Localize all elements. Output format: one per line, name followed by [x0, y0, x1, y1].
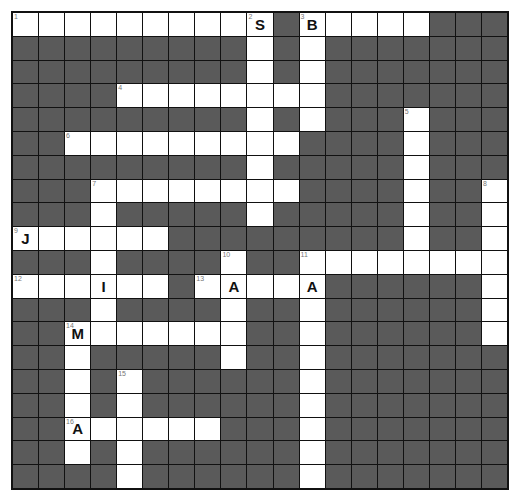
crossword-cell[interactable] [195, 13, 220, 36]
crossword-cell[interactable] [404, 227, 429, 250]
crossword-cell[interactable] [300, 84, 325, 107]
crossword-cell[interactable] [221, 132, 246, 155]
crossword-cell[interactable] [300, 299, 325, 322]
crossword-cell[interactable] [169, 418, 194, 441]
crossword-cell[interactable] [404, 180, 429, 203]
crossword-cell[interactable]: 14M [65, 322, 90, 345]
crossword-cell[interactable] [117, 418, 142, 441]
crossword-cell[interactable] [117, 322, 142, 345]
crossword-cell[interactable] [169, 13, 194, 36]
crossword-cell[interactable] [195, 418, 220, 441]
crossword-cell[interactable] [65, 13, 90, 36]
crossword-cell[interactable]: 4 [117, 84, 142, 107]
crossword-cell[interactable]: 15 [117, 370, 142, 393]
crossword-cell[interactable] [221, 322, 246, 345]
crossword-cell[interactable] [91, 132, 116, 155]
crossword-cell[interactable] [352, 13, 377, 36]
crossword-cell[interactable] [91, 13, 116, 36]
crossword-cell[interactable] [247, 132, 272, 155]
crossword-cell[interactable] [143, 84, 168, 107]
crossword-cell[interactable]: I [91, 275, 116, 298]
crossword-cell[interactable] [143, 13, 168, 36]
crossword-cell[interactable] [274, 275, 299, 298]
crossword-cell[interactable] [404, 251, 429, 274]
crossword-cell[interactable] [274, 180, 299, 203]
crossword-cell[interactable]: 5 [404, 108, 429, 131]
crossword-cell[interactable] [65, 394, 90, 417]
crossword-cell[interactable] [326, 251, 351, 274]
crossword-cell[interactable] [91, 322, 116, 345]
crossword-cell[interactable] [65, 227, 90, 250]
crossword-cell[interactable] [195, 84, 220, 107]
crossword-cell[interactable]: 8 [482, 180, 507, 203]
crossword-cell[interactable] [117, 180, 142, 203]
crossword-cell[interactable] [274, 132, 299, 155]
crossword-cell[interactable] [39, 275, 64, 298]
crossword-cell[interactable] [117, 394, 142, 417]
crossword-cell[interactable] [300, 37, 325, 60]
crossword-cell[interactable]: 10 [221, 251, 246, 274]
crossword-cell[interactable] [274, 84, 299, 107]
crossword-cell[interactable] [169, 322, 194, 345]
crossword-cell[interactable]: 16A [65, 418, 90, 441]
crossword-cell[interactable] [247, 108, 272, 131]
crossword-cell[interactable]: 7 [91, 180, 116, 203]
crossword-cell[interactable] [300, 441, 325, 464]
crossword-cell[interactable] [482, 227, 507, 250]
crossword-cell[interactable] [91, 418, 116, 441]
crossword-cell[interactable] [117, 441, 142, 464]
crossword-cell[interactable] [195, 322, 220, 345]
crossword-cell[interactable] [117, 13, 142, 36]
crossword-cell[interactable]: 1 [13, 13, 38, 36]
crossword-cell[interactable] [65, 441, 90, 464]
crossword-cell[interactable] [91, 299, 116, 322]
crossword-cell[interactable] [300, 418, 325, 441]
crossword-cell[interactable] [300, 394, 325, 417]
crossword-cell[interactable] [482, 203, 507, 226]
crossword-cell[interactable] [247, 203, 272, 226]
crossword-cell[interactable] [117, 465, 142, 488]
crossword-cell[interactable] [247, 156, 272, 179]
crossword-cell[interactable] [300, 108, 325, 131]
crossword-cell[interactable] [247, 61, 272, 84]
crossword-cell[interactable] [352, 251, 377, 274]
crossword-cell[interactable] [482, 275, 507, 298]
crossword-cell[interactable] [247, 37, 272, 60]
crossword-cell[interactable] [143, 132, 168, 155]
crossword-cell[interactable] [143, 418, 168, 441]
crossword-cell[interactable] [378, 251, 403, 274]
crossword-cell[interactable]: 9J [13, 227, 38, 250]
crossword-cell[interactable] [91, 251, 116, 274]
crossword-cell[interactable] [300, 322, 325, 345]
crossword-cell[interactable] [169, 84, 194, 107]
crossword-cell[interactable] [169, 132, 194, 155]
crossword-cell[interactable] [117, 132, 142, 155]
crossword-cell[interactable]: A [300, 275, 325, 298]
crossword-cell[interactable] [39, 13, 64, 36]
crossword-cell[interactable]: 6 [65, 132, 90, 155]
crossword-cell[interactable] [65, 370, 90, 393]
crossword-cell[interactable] [221, 346, 246, 369]
crossword-cell[interactable] [91, 203, 116, 226]
crossword-cell[interactable] [482, 299, 507, 322]
crossword-cell[interactable] [39, 227, 64, 250]
crossword-cell[interactable] [247, 84, 272, 107]
crossword-cell[interactable] [247, 275, 272, 298]
crossword-cell[interactable]: 12 [13, 275, 38, 298]
crossword-cell[interactable] [378, 13, 403, 36]
crossword-cell[interactable] [326, 13, 351, 36]
crossword-cell[interactable] [117, 227, 142, 250]
crossword-cell[interactable] [65, 275, 90, 298]
crossword-cell[interactable] [221, 299, 246, 322]
crossword-cell[interactable]: A [221, 275, 246, 298]
crossword-cell[interactable] [143, 275, 168, 298]
crossword-cell[interactable]: 11 [300, 251, 325, 274]
crossword-cell[interactable] [117, 275, 142, 298]
crossword-cell[interactable] [247, 180, 272, 203]
crossword-cell[interactable] [300, 61, 325, 84]
crossword-cell[interactable] [221, 180, 246, 203]
crossword-cell[interactable] [404, 203, 429, 226]
crossword-cell[interactable] [430, 251, 455, 274]
crossword-cell[interactable] [482, 251, 507, 274]
crossword-cell[interactable] [300, 346, 325, 369]
